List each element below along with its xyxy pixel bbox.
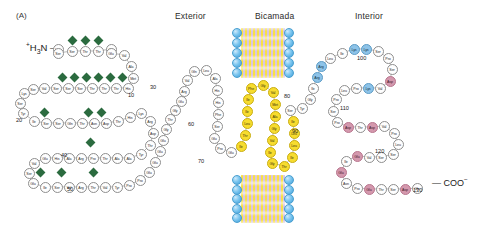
residue-circle: Thr [240, 130, 251, 141]
residue-circle: Gly [269, 123, 280, 134]
residue-circle: Ile [287, 152, 298, 163]
residue-circle: Glu [226, 147, 237, 158]
residue-circle: Pro [135, 175, 146, 186]
residue-circle: Glu [155, 146, 166, 157]
residue-circle: Thr [111, 83, 122, 94]
residue-circle: Thr [93, 46, 104, 57]
residue-circle: Ser [24, 168, 35, 179]
residue-circle: Ala [124, 153, 135, 164]
residue-circle: Arg [179, 86, 190, 97]
residue-circle: Ala [112, 153, 123, 164]
residue-circle: Pro [389, 128, 400, 139]
residue-circle: Ala [270, 111, 281, 122]
lipid-heads-left [232, 28, 242, 78]
residue-circle: Val [364, 152, 375, 163]
residue-circle: Ser [67, 46, 78, 57]
residue-circle: Arg [76, 153, 87, 164]
residue-number: 50 [67, 186, 73, 192]
residue-circle: Thr [113, 116, 124, 127]
residue-circle: Pro [331, 94, 342, 105]
lipid-head-icon [284, 58, 294, 68]
residue-circle: Ser [212, 121, 223, 132]
residue-circle: Phe [213, 109, 224, 120]
residue-circle: Ser [388, 149, 399, 160]
residue-circle: Glu [40, 153, 51, 164]
residue-circle: Ser [41, 118, 52, 129]
residue-number: 130 [413, 187, 422, 193]
residue-circle: Tyr [136, 149, 147, 160]
residue-circle: Pro [383, 53, 394, 64]
residue-circle: Ser [388, 184, 399, 195]
residue-circle: Ile [29, 116, 40, 127]
residue-circle: Thr [145, 140, 156, 151]
residue-circle: Ser [53, 48, 64, 59]
lower-bilayer [232, 175, 294, 223]
residue-circle: Glu [150, 157, 161, 168]
lipid-head-icon [284, 175, 294, 185]
residue-circle: Gln [189, 66, 200, 77]
residue-circle: Gly [267, 158, 278, 169]
lipid-head-icon [232, 204, 242, 214]
residue-number: 90 [292, 128, 298, 134]
lipid-head-icon [284, 185, 294, 195]
residue-circle: Ser [15, 98, 26, 109]
residue-circle: Glu [352, 151, 363, 162]
residue-circle: Gln [65, 118, 76, 129]
lipid-head-icon [284, 213, 294, 223]
residue-circle: Pro [215, 143, 226, 154]
residue-circle: Pro [332, 117, 343, 128]
residue-circle: Ser [285, 105, 296, 116]
residue-circle: Asp [148, 128, 159, 139]
residue-circle: Leu [339, 85, 350, 96]
residue-circle: Ser [373, 46, 384, 57]
residue-circle: Ile [288, 116, 299, 127]
upper-bilayer [232, 28, 294, 78]
residue-circle: Val [268, 87, 279, 98]
residue-circle: Thr [279, 161, 290, 172]
lipid-heads-right [284, 28, 294, 78]
residue-circle: Ser [63, 83, 74, 94]
residue-circle: Thr [87, 83, 98, 94]
residue-circle: Tyr [297, 103, 308, 114]
residue-number: 40 [61, 152, 67, 158]
residue-number: 110 [340, 105, 349, 111]
residue-circle: Met [128, 73, 139, 84]
lipid-head-icon [284, 48, 294, 58]
residue-circle: Ile [265, 147, 276, 158]
residue-circle: Ser [75, 83, 86, 94]
residue-number: 60 [188, 121, 194, 127]
residue-circle: Ile [243, 94, 254, 105]
lipid-head-icon [284, 204, 294, 214]
residue-circle: Ser [387, 64, 398, 75]
residue-circle: Lys [361, 44, 372, 55]
residue-circle: Pro [124, 180, 135, 191]
residue-circle: Lys [19, 88, 30, 99]
lipid-tails [241, 28, 285, 78]
residue-circle: Lys [363, 83, 374, 94]
residue-circle: Val [375, 83, 386, 94]
residue-circle: Ser [328, 106, 339, 117]
lipid-head-icon [284, 68, 294, 78]
residue-circle: Glu [336, 167, 347, 178]
residue-circle: Val [379, 121, 390, 132]
residue-circle: Leu [201, 65, 212, 76]
residue-circle: Ile [242, 106, 253, 117]
lipid-head-icon [232, 175, 242, 185]
residue-circle: Asp [101, 118, 112, 129]
residue-circle: His [212, 85, 223, 96]
residue-circle: Ser [52, 182, 63, 193]
residue-circle: Gly [305, 94, 316, 105]
residue-number: 30 [150, 84, 156, 90]
lipid-head-icon [232, 68, 242, 78]
lipid-head-icon [284, 38, 294, 48]
residue-circle: Val [100, 182, 111, 193]
residue-circle: Arg [76, 182, 87, 193]
residue-circle: Asp [343, 122, 354, 133]
residue-circle: Ser [53, 118, 64, 129]
residue-circle: Ile [337, 48, 348, 59]
residue-number: 80 [284, 93, 290, 99]
residue-circle: Thr [77, 118, 88, 129]
lipid-head-icon [232, 213, 242, 223]
residue-circle: Glu [209, 133, 220, 144]
residue-circle: Asn [341, 178, 352, 189]
